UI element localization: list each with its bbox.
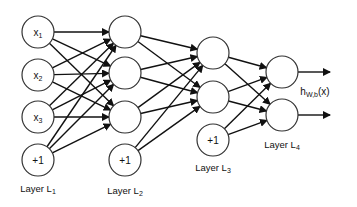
node-label: +1 [207, 135, 219, 146]
layer-label: Layer L4 [264, 139, 300, 151]
neuron-node [197, 81, 229, 113]
output-label: hW,b(x) [300, 86, 329, 98]
node-label: +1 [32, 155, 44, 166]
connection-edge [47, 45, 116, 147]
connection-edge [228, 57, 266, 68]
connection-edge [228, 77, 267, 91]
neuron-node [266, 99, 298, 131]
connection-edge [141, 57, 198, 70]
connection-edge [135, 65, 203, 147]
connection-edge [141, 36, 198, 50]
connection-edge [52, 124, 110, 153]
node-label: +1 [119, 155, 131, 166]
connection-edge [138, 106, 200, 150]
connections [47, 32, 330, 153]
connection-edge [228, 120, 267, 134]
connection-edge [138, 62, 200, 107]
layer-label: Layer L2 [107, 185, 143, 197]
neuron-node [266, 56, 298, 88]
layer-label: Layer L3 [195, 162, 231, 174]
neuron-node [109, 101, 141, 133]
neuron-node [197, 37, 229, 69]
neural-network-diagram: x1x2x3+1+1+1 Layer L1Layer L2Layer L3Lay… [0, 0, 357, 207]
neuron-node [109, 57, 141, 89]
neuron-node [109, 16, 141, 48]
layer-label: Layer L1 [20, 183, 56, 195]
